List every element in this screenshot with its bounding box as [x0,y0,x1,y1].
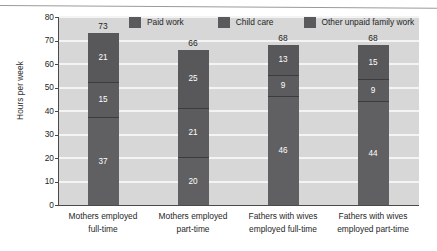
stacked-bar: 211537 [88,33,119,205]
bar-total-label: 66 [163,39,223,47]
y-axis-tick-label: 30 [26,130,54,138]
legend-label-paid-work: Paid work [147,17,184,27]
y-axis-tick-label: 0 [26,201,54,209]
chart-legend: Paid work Child care Other unpaid family… [129,15,414,29]
bar-segment-value-label: 37 [98,157,107,166]
bar-segment-value-label: 21 [98,53,107,62]
x-axis-category-label-line: employed part-time [317,223,429,236]
bar-segment-child-care: 21 [178,109,209,158]
x-axis-category-label: Fathers with wivesemployed part-time [317,210,429,235]
bar-segment-value-label: 9 [371,86,376,95]
legend-item-other-unpaid-family-work: Other unpaid family work [304,17,415,28]
bar-segment-paid-work: 37 [88,118,119,205]
legend-label-other-unpaid-family-work: Other unpaid family work [322,17,415,27]
bar-segment-paid-work: 20 [178,158,209,205]
y-axis-tick-label: 70 [26,36,54,44]
bar-segment-other-unpaid-family-work: 13 [268,45,299,76]
bar-segment-paid-work: 44 [358,102,389,205]
bar-segment-value-label: 13 [278,55,287,64]
y-axis-tick-label: 40 [26,107,54,115]
y-axis-tick-label: 50 [26,83,54,91]
x-axis-category-label-line: Fathers with wives [317,210,429,223]
bar-segment-child-care: 9 [268,76,299,97]
bar-segment-value-label: 46 [278,146,287,155]
stacked-bar: 15944 [358,45,389,205]
legend-swatch-icon-child-care [218,17,230,28]
top-divider-rule [0,5,437,9]
stacked-bar: 13946 [268,45,299,205]
bar-segment-value-label: 20 [188,177,197,186]
bar-segment-other-unpaid-family-work: 21 [88,33,119,82]
stacked-bar: 252120 [178,50,209,205]
legend-swatch-icon-paid-work [129,17,141,28]
bar-segment-other-unpaid-family-work: 25 [178,50,209,109]
bar-segment-value-label: 25 [188,74,197,83]
y-axis-tick-label: 10 [26,177,54,185]
bar-segment-paid-work: 46 [268,97,299,205]
bar-segment-value-label: 15 [368,58,377,67]
y-axis-tick-label: 80 [26,13,54,21]
bar-total-label: 73 [73,22,133,30]
legend-label-child-care: Child care [236,17,274,27]
bar-segment-value-label: 9 [281,81,286,90]
y-axis-tick-label: 20 [26,154,54,162]
bar-segment-value-label: 15 [98,95,107,104]
bar-segment-value-label: 21 [188,128,197,137]
bar-segment-child-care: 9 [358,80,389,101]
y-axis-tick-label: 60 [26,60,54,68]
bar-segment-other-unpaid-family-work: 15 [358,45,389,80]
y-axis-title: Hours per week [16,43,25,139]
legend-item-paid-work: Paid work [129,17,184,28]
legend-item-child-care: Child care [218,17,274,28]
bar-total-label: 68 [253,34,313,42]
x-axis-line [57,205,419,206]
legend-swatch-icon-other-unpaid-family-work [304,17,316,28]
bar-segment-value-label: 44 [368,149,377,158]
chart-figure: Hours per week 01020304050607080 2115377… [0,0,437,251]
bar-total-label: 68 [343,34,403,42]
bar-segment-child-care: 15 [88,83,119,118]
